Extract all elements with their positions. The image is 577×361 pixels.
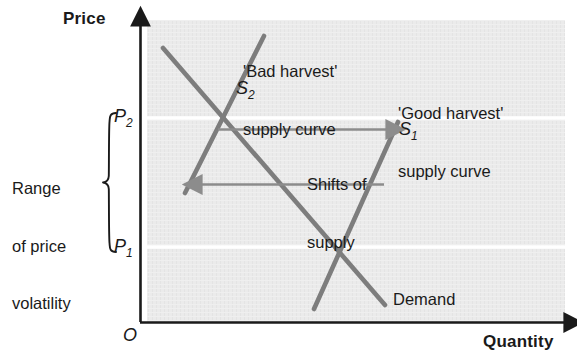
p1-subscript: 1 [126, 246, 133, 260]
bad-harvest-line-2: supply curve [243, 120, 337, 139]
p2-letter: P [114, 106, 126, 126]
price-level-p1-label: P1 [114, 236, 133, 261]
bad-harvest-line-1: 'Bad harvest' [243, 62, 337, 81]
range-line-3: volatility [12, 294, 71, 313]
shifts-line-2: supply [307, 233, 367, 252]
demand-curve-label: Demand [393, 290, 455, 309]
p1-letter: P [114, 236, 126, 256]
good-harvest-line-1: 'Good harvest' [398, 104, 503, 123]
y-axis-label: Price [63, 9, 106, 29]
range-line-1: Range [12, 179, 71, 198]
x-axis-label: Quantity [483, 332, 554, 352]
shifts-of-supply-annotation: Shifts of supply [307, 137, 367, 290]
supply-demand-diagram: Price Quantity O P2 P1 S2 S1 'Bad harves… [0, 0, 577, 361]
price-volatility-range-annotation: Range of price volatility [12, 141, 71, 351]
good-harvest-line-2: supply curve [398, 162, 503, 181]
price-range-brace [103, 113, 116, 252]
origin-label: O [123, 325, 137, 346]
range-line-2: of price [12, 237, 71, 256]
shifts-line-1: Shifts of [307, 175, 367, 194]
p2-subscript: 2 [126, 116, 133, 130]
price-level-p2-label: P2 [114, 106, 133, 131]
good-harvest-annotation: 'Good harvest' supply curve [398, 66, 503, 219]
